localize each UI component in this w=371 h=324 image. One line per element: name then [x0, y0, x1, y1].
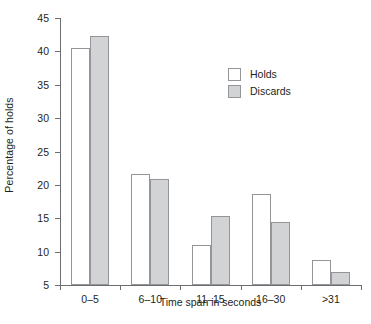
- y-tick-mark: [55, 118, 60, 119]
- bar-discards-0: [90, 36, 109, 285]
- legend-item-holds: Holds: [228, 66, 348, 83]
- bar-holds-3: [252, 194, 271, 285]
- x-tick-mark: [180, 285, 181, 290]
- y-axis-title-text: Percentage of holds: [3, 97, 15, 192]
- x-tick-mark: [361, 285, 362, 290]
- y-tick-label: 35: [9, 80, 49, 91]
- bar-discards-4: [331, 272, 350, 285]
- legend-swatch-discards-icon: [228, 85, 241, 98]
- legend-label-holds: Holds: [250, 69, 277, 80]
- y-tick-label: 45: [9, 13, 49, 24]
- legend: Holds Discards: [228, 66, 348, 100]
- bar-chart-figure: Percentage of holds 51015202530354045 0–…: [0, 0, 371, 324]
- y-tick-label: 25: [9, 147, 49, 158]
- y-tick-label: 10: [9, 247, 49, 258]
- y-tick-label: 5: [9, 280, 49, 291]
- y-tick-label: 20: [9, 180, 49, 191]
- y-tick-mark: [55, 218, 60, 219]
- y-tick-label: 40: [9, 46, 49, 57]
- x-tick-mark: [301, 285, 302, 290]
- bar-holds-4: [312, 260, 331, 285]
- y-tick-mark: [55, 152, 60, 153]
- bar-discards-3: [271, 222, 290, 285]
- y-tick-label: 15: [9, 213, 49, 224]
- legend-item-discards: Discards: [228, 83, 348, 100]
- x-tick-mark: [241, 285, 242, 290]
- x-axis-title: Time span in seconds: [60, 296, 361, 308]
- y-tick-mark: [55, 85, 60, 86]
- legend-swatch-holds-icon: [228, 68, 241, 81]
- y-tick-mark: [55, 185, 60, 186]
- bar-holds-0: [71, 48, 90, 285]
- y-tick-label: 30: [9, 113, 49, 124]
- bar-discards-1: [150, 179, 169, 285]
- x-axis-line: [60, 285, 361, 286]
- x-tick-mark: [120, 285, 121, 290]
- plot-area: 51015202530354045 0–56–1011–1516–30>31 H…: [60, 18, 361, 285]
- bar-holds-2: [192, 245, 211, 285]
- y-tick-mark: [55, 18, 60, 19]
- legend-label-discards: Discards: [250, 86, 291, 97]
- x-tick-mark: [60, 285, 61, 290]
- bar-holds-1: [131, 174, 150, 285]
- y-tick-mark: [55, 252, 60, 253]
- y-tick-mark: [55, 51, 60, 52]
- bar-discards-2: [211, 216, 230, 285]
- y-axis-line: [60, 18, 61, 286]
